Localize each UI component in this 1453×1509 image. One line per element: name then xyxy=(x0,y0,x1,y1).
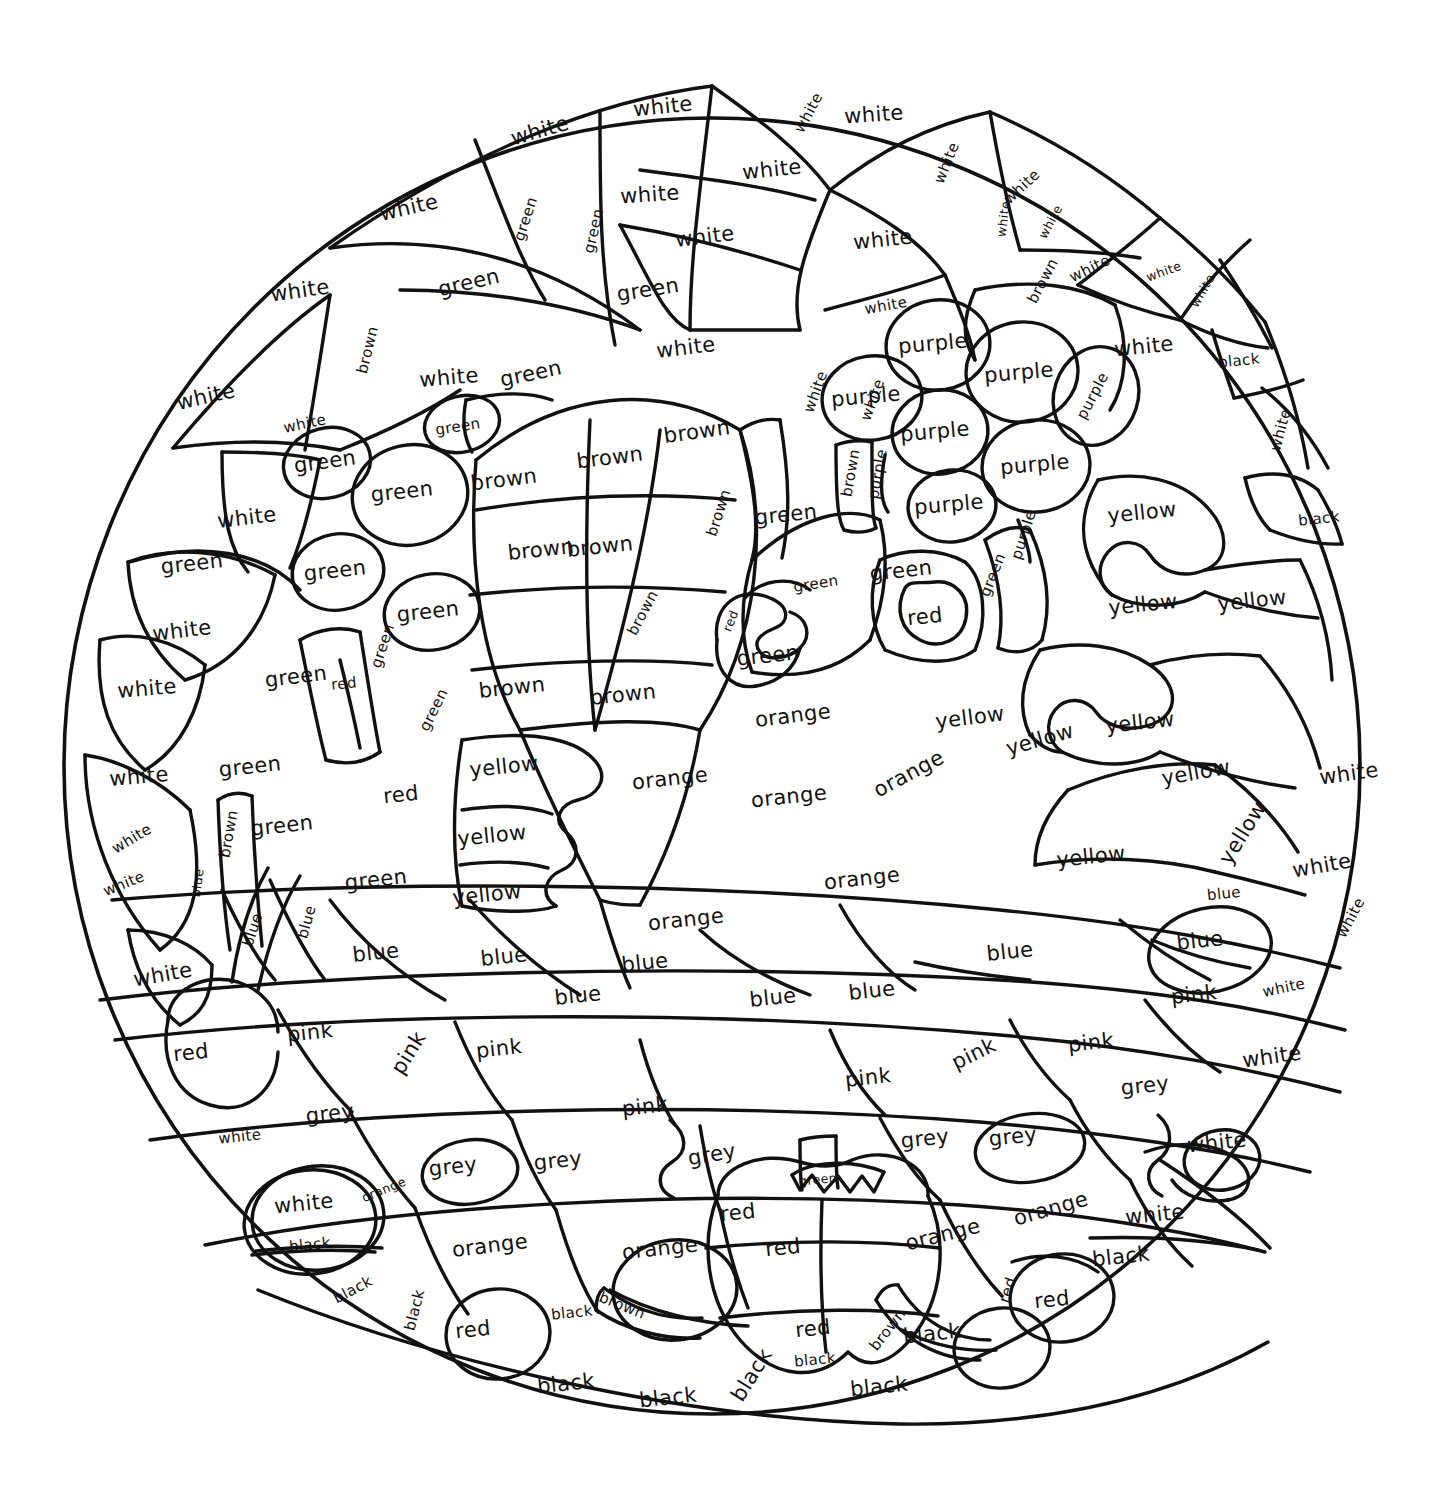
mandala-line-art xyxy=(0,0,1453,1509)
coloring-sheet-page: whitewhitewhitewhitewhitewhitewhitewhite… xyxy=(0,0,1453,1509)
